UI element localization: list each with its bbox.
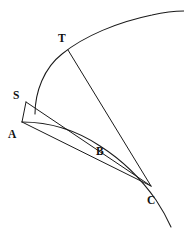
point-label-T: T [58, 33, 66, 45]
curve-group [22, 11, 184, 227]
large-circular-arc [35, 11, 184, 114]
point-label-C: C [147, 195, 155, 207]
point-label-S: S [13, 90, 19, 102]
segment-group [22, 50, 151, 186]
segment-s-c [26, 102, 151, 186]
small-arc-from-A-through-B-to-C [22, 122, 171, 227]
geometry-figure: T S A B C [0, 0, 184, 241]
point-label-A: A [8, 129, 16, 141]
segment-a-s [22, 102, 26, 122]
geometry-canvas [0, 0, 184, 241]
point-label-B: B [96, 146, 104, 158]
